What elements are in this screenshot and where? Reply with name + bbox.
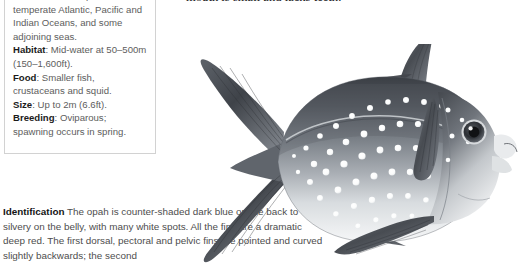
opah-fish-illustration — [186, 44, 528, 264]
list-item-habitat: Habitat: Mid-water at 50–500m (150–1,600… — [13, 43, 147, 70]
list-item-distribution: Distribution: Tropical and temperate Atl… — [13, 0, 147, 43]
list-item-size: Size: Up to 2m (6.6ft). — [13, 98, 147, 112]
identification-label: Identification — [3, 206, 64, 217]
factfile-list: Distribution: Tropical and temperate Atl… — [5, 0, 155, 139]
caudal-fin — [201, 59, 286, 262]
factfile-key-distribution: Distribution — [13, 0, 67, 1]
factfile-value-size: : Up to 2m (6.6ft). — [32, 99, 107, 110]
fish-svg — [186, 44, 528, 264]
list-item-breeding: Breeding: Oviparous; spawning occurs in … — [13, 111, 147, 138]
serif-paragraph: crustaceans and small squid. The mouth i… — [186, 0, 366, 5]
factfile-value-distribution: : Tropical and temperate Atlantic, Pacif… — [13, 0, 142, 42]
fish-eye — [462, 120, 487, 145]
factfile-key-breeding: Breeding — [13, 112, 55, 123]
factfile-key-size: Size — [13, 99, 32, 110]
species-factfile-box: Distribution: Tropical and temperate Atl… — [4, 0, 156, 154]
factfile-key-food: Food — [13, 72, 36, 83]
list-item-food: Food: Smaller fish, crustaceans and squi… — [13, 71, 147, 98]
factfile-key-habitat: Habitat — [13, 44, 46, 55]
serif-text-column: crustaceans and small squid. The mouth i… — [186, 0, 366, 5]
